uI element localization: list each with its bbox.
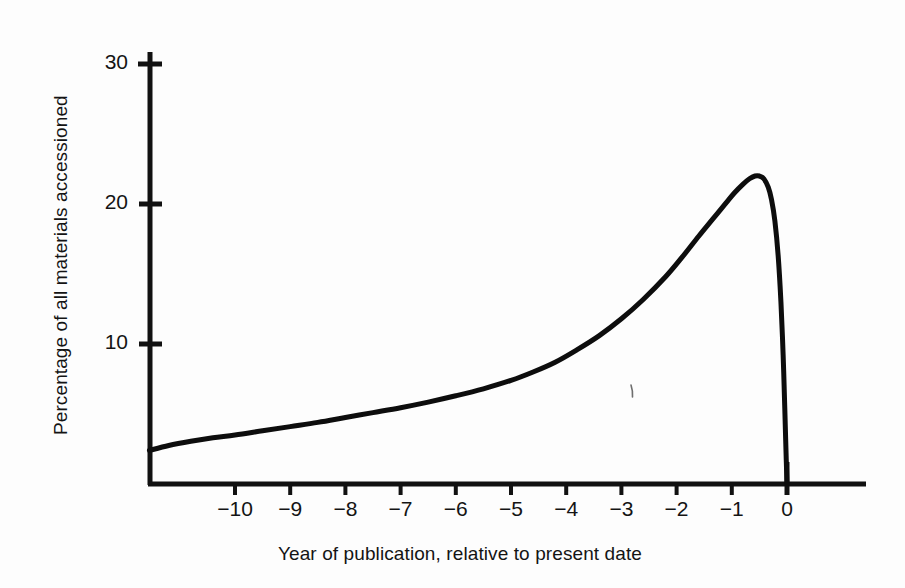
scan-artifact-speck: [631, 385, 633, 397]
x-tick-marks: [235, 462, 787, 495]
data-series-curve: [149, 176, 787, 484]
x-tick-label: −10: [210, 497, 260, 521]
x-tick-label: −6: [431, 497, 481, 521]
x-tick-label: −4: [541, 497, 591, 521]
y-tick-label: 30: [82, 50, 128, 74]
x-tick-label: −7: [376, 497, 426, 521]
x-tick-label: −8: [320, 497, 370, 521]
chart-figure: Percentage of all materials accessioned …: [0, 0, 905, 588]
x-tick-label: −2: [652, 497, 702, 521]
x-tick-label: −1: [707, 497, 757, 521]
x-tick-label: −3: [596, 497, 646, 521]
x-tick-label: 0: [762, 497, 812, 521]
x-tick-label: −5: [486, 497, 536, 521]
y-tick-label: 20: [82, 190, 128, 214]
y-tick-label: 10: [82, 330, 128, 354]
x-tick-label: −9: [265, 497, 315, 521]
x-axis-title: Year of publication, relative to present…: [175, 543, 745, 565]
y-axis-title: Percentage of all materials accessioned: [50, 105, 72, 435]
